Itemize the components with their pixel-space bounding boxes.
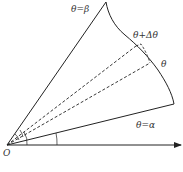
polar-area-diagram: θ=β θ+Δθ θ θ=α O [0,0,183,172]
boundary-curve [106,2,174,104]
dashed-ray-theta [7,63,150,145]
angle-arc-alpha [56,133,57,145]
dashed-ray-theta-plus-dtheta [7,46,136,145]
angle-arc-small-2 [20,130,23,137]
ray-theta-beta [7,2,106,145]
label-origin: O [3,148,11,158]
label-theta-beta: θ=β [71,4,89,14]
label-theta-alpha: θ=α [136,120,155,130]
label-theta-plus-dtheta: θ+Δθ [133,30,158,40]
label-theta: θ [161,59,167,69]
